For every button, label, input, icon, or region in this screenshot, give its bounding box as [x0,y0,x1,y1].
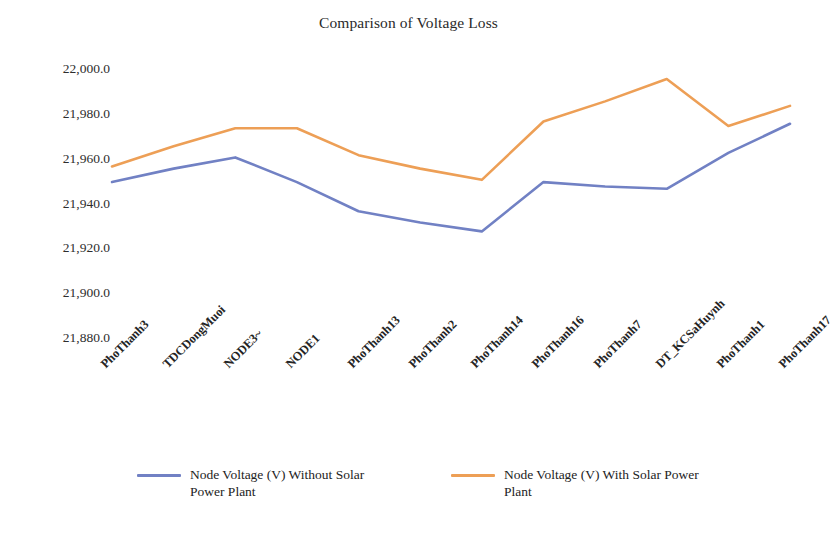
y-axis-tick-label: 21,920.0 [10,240,110,256]
y-axis-tick-label: 21,960.0 [10,151,110,167]
y-axis-tick-label: 21,940.0 [10,196,110,212]
chart-title: Comparison of Voltage Loss [0,14,817,32]
x-axis: PhoThanh3TDCDongMuoiNODE3~NODE1PhoThanh1… [0,355,817,465]
series-line-with-solar [112,79,790,180]
legend-label-without-solar: Node Voltage (V) Without Solar Power Pla… [190,466,400,500]
y-axis-tick-label: 21,980.0 [10,106,110,122]
legend-entry-with-solar: Node Voltage (V) With Solar Power Plant [451,466,714,500]
y-axis-tick-label: 21,900.0 [10,285,110,301]
y-axis-tick-label: 21,880.0 [10,330,110,346]
legend-label-with-solar: Node Voltage (V) With Solar Power Plant [504,466,714,500]
legend-swatch-with-solar [451,474,495,477]
chart-legend: Node Voltage (V) Without Solar Power Pla… [0,466,817,526]
series-line-without-solar [112,124,790,232]
legend-swatch-without-solar [137,474,181,477]
y-axis-tick-label: 22,000.0 [10,61,110,77]
legend-entry-without-solar: Node Voltage (V) Without Solar Power Pla… [137,466,400,500]
